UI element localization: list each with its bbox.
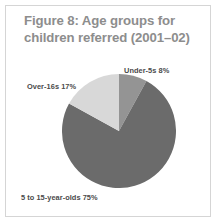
pie-label-5-to-15-year-olds: 5 to 15-year-olds 75% [21,193,98,202]
pie-chart-svg [62,74,176,188]
figure-container: Figure 8: Age groups for children referr… [0,0,218,223]
pie-label-under-5s: Under-5s 8% [124,66,169,75]
pie-slices [62,74,176,188]
figure-title: Figure 8: Age groups for children referr… [24,13,202,46]
pie-label-over-16s: Over-16s 17% [27,82,76,91]
pie-chart [62,74,176,188]
